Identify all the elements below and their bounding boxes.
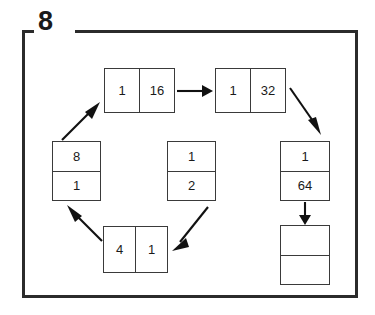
arrow-8-1-to-1-16-icon (60, 100, 106, 144)
node-1-32-cell-0: 1 (216, 69, 250, 112)
node-1-2-cell-0: 1 (168, 142, 215, 171)
node-1-64-cell-1: 64 (281, 171, 329, 201)
node-empty-cell-0 (281, 226, 329, 255)
node-1-64-cell-0: 1 (281, 142, 329, 171)
arrow-1-64-to-empty-icon (296, 202, 314, 226)
arrow-1-2-to-4-1-icon (168, 205, 213, 253)
node-8-1-cell-1: 1 (53, 171, 100, 201)
node-8-1: 8 1 (52, 141, 101, 201)
diagram-canvas: 8 1 16 1 32 8 1 1 2 1 64 4 1 (0, 0, 375, 315)
frame-legend-label: 8 (38, 8, 53, 35)
node-1-64: 1 64 (280, 141, 330, 201)
arrow-1-32-to-1-64-icon (288, 86, 330, 138)
arrow-4-1-to-8-1-icon (62, 203, 107, 245)
frame-border-left (22, 30, 25, 298)
node-1-32-cell-1: 32 (250, 69, 285, 112)
node-8-1-cell-0: 8 (53, 142, 100, 171)
node-4-1-cell-0: 4 (104, 227, 135, 272)
node-empty (280, 225, 330, 285)
node-1-32: 1 32 (215, 68, 286, 113)
node-1-16-cell-1: 16 (139, 69, 174, 112)
node-1-16: 1 16 (104, 68, 175, 113)
arrow-1-16-to-1-32-icon (177, 82, 215, 100)
node-4-1-cell-1: 1 (135, 227, 167, 272)
frame-border-bottom (22, 295, 358, 298)
frame-border-right (355, 30, 358, 298)
frame-border-top (75, 30, 358, 33)
node-4-1: 4 1 (103, 226, 168, 273)
node-1-2: 1 2 (167, 141, 216, 201)
node-1-2-cell-1: 2 (168, 171, 215, 201)
node-1-16-cell-0: 1 (105, 69, 139, 112)
node-empty-cell-1 (281, 255, 329, 285)
